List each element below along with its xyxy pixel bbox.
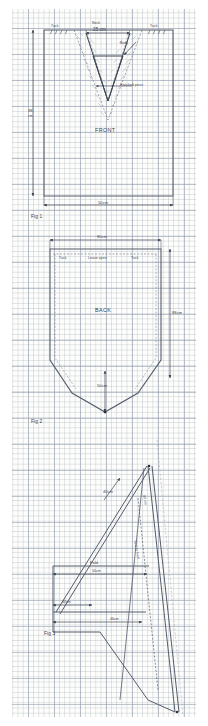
- fig1-v-shading-outline: [74, 30, 142, 120]
- fig2-tuck-left-label: Tuck: [59, 256, 67, 260]
- fig1-caption: Fig 1: [31, 214, 42, 219]
- fig1-tuck-ticks: [50, 30, 165, 34]
- fig1-neck-label: Neck: [92, 21, 100, 25]
- fig1-outline: [44, 30, 173, 196]
- fig3-caption: Fig 3: [44, 631, 55, 636]
- fig3-upper-diagonal-a: [56, 466, 147, 612]
- fig2-top-width: 80cm: [97, 234, 107, 239]
- fig1-piece-label: FRONT: [95, 127, 115, 133]
- fig3-hem-width: 46cm: [110, 617, 119, 621]
- fig1-tuck-right-label: Tuck: [150, 24, 158, 28]
- fig3-fold-label: Fold: [90, 560, 98, 565]
- fig3-right-seam-b: [152, 466, 179, 712]
- fig3-lower-width: 40cm: [62, 600, 71, 604]
- fig1-height-value: 38: [28, 108, 33, 113]
- fig1-hatching: [77, 33, 136, 115]
- fig2-piece-label: BACK: [95, 307, 111, 313]
- fig1-width-dimension: [44, 196, 173, 206]
- fig1-tuck-left-label: Tuck: [51, 24, 59, 28]
- fig1-neck-width: 25 cm: [93, 27, 106, 32]
- fig2-point-depth: 50cm: [97, 383, 107, 388]
- fig3-right-seam-a: [148, 466, 175, 712]
- fig2-point-dimension: [104, 371, 107, 413]
- fig1-finished-piece-label: Finished piece: [120, 83, 143, 87]
- fig3-dimensions: [53, 465, 178, 714]
- fig2-top-dimension: [50, 240, 161, 249]
- fig3-hem-diagonal: [100, 632, 148, 700]
- fig1-body-label: Body: [120, 41, 128, 45]
- fig2-side-height: 88cm: [172, 310, 182, 315]
- fig3-fold-width: 50cm: [92, 569, 101, 573]
- pattern-sheet: Neck 25 cm Tuck Tuck Body Finished piece…: [0, 0, 208, 726]
- fig2-leave-open-label: Leave open: [88, 256, 107, 260]
- fig3-bottom-edge: [148, 700, 175, 712]
- fig2-caption: Fig 2: [31, 419, 42, 424]
- fig3-diagonal-upper: 40cm: [103, 489, 113, 494]
- fig2-side-seam-dashed: [55, 254, 156, 389]
- fig1-front-piece: [44, 30, 173, 196]
- fig3-panel: [53, 440, 183, 716]
- fig2-tuck-right-label: Tuck: [131, 256, 139, 260]
- fig3-construction-line: [157, 440, 183, 716]
- fig1-width-value: 50cm: [98, 200, 108, 205]
- fig1-height-unit: cm: [28, 114, 33, 118]
